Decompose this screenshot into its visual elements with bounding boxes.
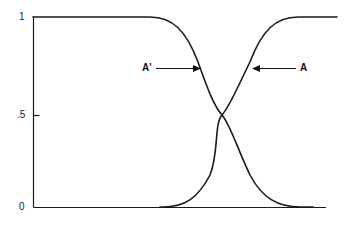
annotation-arrow-a-prime (156, 65, 201, 72)
y-axis-label-half: .5 (17, 110, 25, 120)
chart-plot-area (0, 0, 347, 226)
y-axis-label-1: 1 (19, 12, 25, 22)
chart-figure: 1 .5 0 A' A (0, 0, 347, 226)
curve-a-prime (33, 17, 313, 207)
series-label-a-prime: A' (142, 63, 152, 73)
y-axis-label-0: 0 (19, 202, 25, 212)
curve-a (160, 17, 337, 207)
series-label-a: A (300, 63, 307, 73)
annotation-arrow-a (252, 65, 296, 72)
